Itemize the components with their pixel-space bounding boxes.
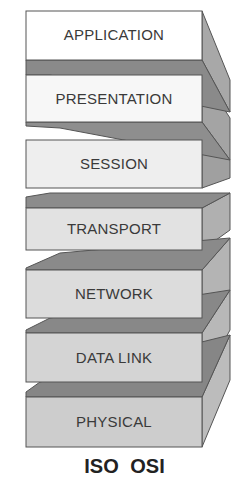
layer-label-transport: TRANSPORT [26, 220, 202, 237]
layer-label-data-link: DATA LINK [26, 349, 202, 366]
diagram-title: ISO OSI [0, 455, 249, 478]
layer-label-application: APPLICATION [26, 26, 202, 43]
layer-label-network: NETWORK [26, 285, 202, 302]
transport-top-slab [26, 193, 230, 208]
layer-label-physical: PHYSICAL [26, 413, 202, 430]
layer-label-presentation: PRESENTATION [26, 90, 202, 107]
layer-label-session: SESSION [26, 155, 202, 172]
